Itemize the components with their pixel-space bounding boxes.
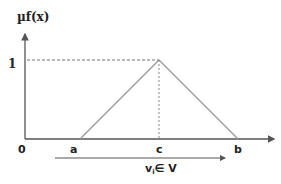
triangle-membership-curve (80, 60, 238, 139)
x-label-a: a (70, 143, 77, 156)
y-tick-label-1: 1 (8, 57, 16, 71)
x-label-c: c (156, 143, 163, 156)
y-axis-label: µf(x) (17, 10, 49, 24)
origin-label: 0 (18, 143, 26, 156)
domain-label: vi∈ V (145, 162, 177, 176)
membership-function-diagram: µf(x) 1 0 a c b vi∈ V (0, 0, 281, 184)
x-label-b: b (234, 143, 242, 156)
